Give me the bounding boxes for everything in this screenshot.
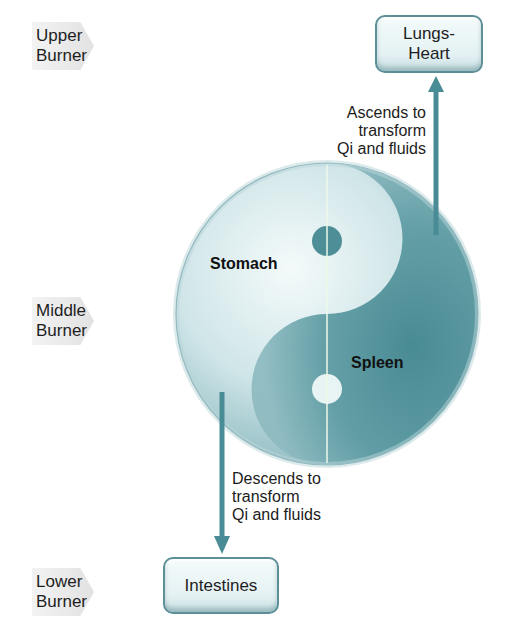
spleen-label: Spleen (351, 354, 403, 372)
ascend-arrow-head (428, 76, 444, 92)
box-label: Lungs- (403, 24, 455, 44)
intestines-box: Intestines (163, 557, 279, 614)
note-line: Qi and fluids (318, 140, 426, 158)
descend-arrow-head (214, 536, 230, 554)
note-line: Descends to (232, 470, 321, 488)
note-line: Ascends to (318, 104, 426, 122)
descend-note: Descends to transform Qi and fluids (232, 470, 321, 524)
stomach-label: Stomach (210, 255, 278, 273)
lungs-heart-box: Lungs-Heart (375, 15, 483, 73)
box-label: Heart (403, 44, 455, 64)
ascend-note: Ascends to transform Qi and fluids (318, 104, 426, 158)
note-line: transform (232, 488, 321, 506)
box-label: Intestines (185, 576, 258, 596)
diagram-graphics (0, 0, 522, 635)
note-line: transform (318, 122, 426, 140)
note-line: Qi and fluids (232, 506, 321, 524)
